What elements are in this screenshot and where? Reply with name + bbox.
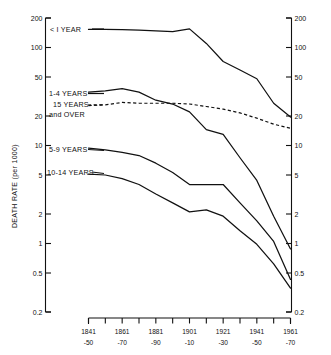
series-label-fifteen-over-line2: and OVER xyxy=(49,110,85,119)
series-line-10-14-years xyxy=(89,174,291,288)
left-tick-label-50: 50 xyxy=(35,74,43,81)
left-tick-label-100: 100 xyxy=(31,44,43,51)
x-tick-label-bottom-1921: -30 xyxy=(218,339,228,346)
left-tick-label-2: 2 xyxy=(39,211,43,218)
chart-container: 2001005020105210.50.2 2001005020105210.5… xyxy=(0,0,331,355)
label-leader-lines xyxy=(88,29,104,174)
x-tick-label-top-1941: 1941 xyxy=(249,328,264,335)
x-tick-label-bottom-1841: -50 xyxy=(84,339,94,346)
right-tick-label-5: 5 xyxy=(295,172,299,179)
series-label-under-one: < I YEAR xyxy=(50,25,81,34)
left-axis: 2001005020105210.50.2 xyxy=(31,15,51,316)
left-tick-label-200: 200 xyxy=(31,15,43,22)
left-tick-label-0.2: 0.2 xyxy=(33,309,43,316)
right-tick-label-2: 2 xyxy=(295,211,299,218)
series-label-ten-to-fourteen: 10-14 YEARS xyxy=(47,168,94,177)
x-tick-label-bottom-1881: -90 xyxy=(151,339,161,346)
left-tick-label-20: 20 xyxy=(35,113,43,120)
mortality-line-chart: 2001005020105210.50.2 2001005020105210.5… xyxy=(0,0,331,355)
x-axis-tick-labels: 1841-501861-701881-901901-101921-301941-… xyxy=(81,328,298,346)
right-axis-ticks xyxy=(286,18,292,312)
left-tick-label-5: 5 xyxy=(39,172,43,179)
series-line-15-years-and-over xyxy=(89,102,291,128)
series-line-5-9-years xyxy=(89,148,291,279)
right-axis: 2001005020105210.50.2 xyxy=(286,15,306,316)
left-tick-label-1: 1 xyxy=(39,240,43,247)
right-tick-label-20: 20 xyxy=(295,113,303,120)
right-tick-label-1: 1 xyxy=(295,240,299,247)
series-curves xyxy=(89,29,291,288)
left-tick-label-0.5: 0.5 xyxy=(33,270,43,277)
right-tick-label-100: 100 xyxy=(295,44,307,51)
x-tick-label-top-1841: 1841 xyxy=(81,328,96,335)
right-tick-label-0.5: 0.5 xyxy=(295,270,305,277)
left-axis-tick-labels: 2001005020105210.50.2 xyxy=(31,15,43,316)
right-tick-label-0.2: 0.2 xyxy=(295,309,305,316)
x-tick-label-bottom-1961: -70 xyxy=(286,339,296,346)
x-axis: 1841-501861-701881-901901-101921-301941-… xyxy=(81,318,298,346)
left-tick-label-10: 10 xyxy=(35,142,43,149)
series-label-fifteen-over-line1: 15 YEARS xyxy=(53,100,89,109)
x-tick-label-top-1921: 1921 xyxy=(216,328,231,335)
right-tick-label-200: 200 xyxy=(295,15,307,22)
x-tick-label-bottom-1861: -70 xyxy=(117,339,127,346)
x-tick-label-top-1881: 1881 xyxy=(148,328,163,335)
right-axis-tick-labels: 2001005020105210.50.2 xyxy=(295,15,307,316)
x-tick-label-bottom-1901: -10 xyxy=(185,339,195,346)
left-axis-ticks xyxy=(46,18,52,312)
x-tick-label-top-1861: 1861 xyxy=(115,328,130,335)
series-label-five-to-nine: 5-9 YEARS xyxy=(49,145,87,154)
series-label-one-to-four: 1-4 YEARS xyxy=(49,89,87,98)
y-axis-title: DEATH RATE (per 1000) xyxy=(11,144,19,228)
right-tick-label-10: 10 xyxy=(295,142,303,149)
x-axis-ticks xyxy=(89,318,291,324)
right-tick-label-50: 50 xyxy=(295,74,303,81)
x-tick-label-bottom-1941: -50 xyxy=(252,339,262,346)
x-tick-label-top-1901: 1901 xyxy=(182,328,197,335)
x-tick-label-top-1961: 1961 xyxy=(283,328,298,335)
series-labels: < I YEAR 1-4 YEARS 15 YEARS and OVER 5-9… xyxy=(47,25,94,178)
